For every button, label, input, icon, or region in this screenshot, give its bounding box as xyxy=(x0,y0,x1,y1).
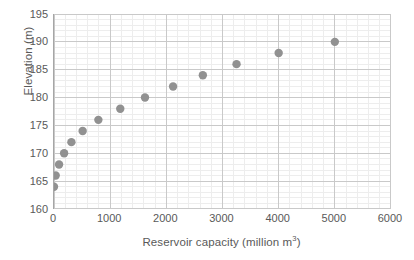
data-point xyxy=(232,60,240,68)
data-point xyxy=(331,38,339,46)
x-tick-label: 5000 xyxy=(309,212,359,225)
data-point xyxy=(78,127,86,135)
x-axis-title-base: Reservoir capacity (million m xyxy=(142,236,292,248)
data-point xyxy=(199,71,207,79)
data-point xyxy=(60,149,68,157)
data-point xyxy=(54,183,58,191)
x-tick-label: 0 xyxy=(28,212,78,225)
x-axis-title-tail: ) xyxy=(297,236,301,248)
scatter-chart: Elevation (m) 160165170175180185190195 0… xyxy=(0,0,414,260)
data-point xyxy=(141,93,149,101)
x-tick-label: 1000 xyxy=(84,212,134,225)
data-point xyxy=(116,105,124,113)
data-point xyxy=(94,116,102,124)
x-tick-label: 6000 xyxy=(365,212,414,225)
data-point xyxy=(54,171,60,179)
x-tick-label: 2000 xyxy=(140,212,190,225)
data-point xyxy=(55,160,63,168)
data-point xyxy=(169,82,177,90)
data-point xyxy=(274,49,282,57)
y-tick-label: 170 xyxy=(18,147,48,160)
data-point xyxy=(67,138,75,146)
y-axis-title: Elevation (m) xyxy=(19,0,37,141)
y-tick-label: 160 xyxy=(18,203,48,216)
y-tick-label: 165 xyxy=(18,175,48,188)
data-points-layer xyxy=(54,14,391,209)
x-tick-label: 3000 xyxy=(197,212,247,225)
plot-area xyxy=(53,14,390,209)
x-axis-title: Reservoir capacity (million m3) xyxy=(53,236,390,248)
x-tick-label: 4000 xyxy=(253,212,303,225)
